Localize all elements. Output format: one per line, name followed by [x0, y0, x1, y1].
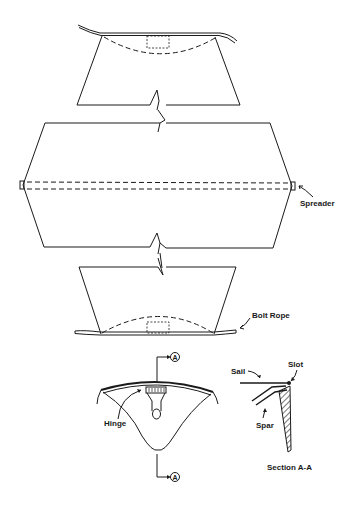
spreader-arrow	[299, 186, 313, 197]
slot-label: Slot	[288, 360, 303, 369]
bottom-panel-outline	[79, 258, 163, 334]
top-pocket	[147, 36, 169, 48]
hinge-label: Hinge	[104, 419, 127, 428]
sail-assembly-diagram: Spreader Bolt Rope A	[0, 0, 354, 505]
bolt-rope-label: Bolt Rope	[252, 311, 290, 320]
spar-label: Spar	[256, 421, 274, 430]
middle-sail-panel: Spreader	[20, 110, 335, 254]
sail-label: Sail	[231, 367, 245, 376]
spreader-line-upper	[27, 182, 290, 183]
bottom-dashed-curve	[102, 317, 213, 334]
section-title: Section A-A	[267, 463, 312, 472]
hatched-wedge	[279, 386, 291, 452]
spreader-label: Spreader	[300, 199, 335, 208]
top-dashed-curve	[104, 37, 215, 54]
bottom-pocket	[147, 322, 169, 333]
svg-text:A: A	[172, 354, 177, 361]
hinge-arrow	[118, 390, 141, 419]
hinge-detail: A Hinge A	[97, 353, 218, 482]
hinge-ring	[153, 409, 161, 419]
slot-dot	[287, 381, 291, 385]
svg-text:A: A	[172, 474, 177, 481]
section-a-a: Sail Slot Spar Section A-A	[231, 360, 312, 472]
top-sail-panel	[77, 25, 240, 110]
bottom-bolt-rope	[75, 330, 236, 332]
bottom-sail-panel: Bolt Rope	[75, 253, 290, 335]
